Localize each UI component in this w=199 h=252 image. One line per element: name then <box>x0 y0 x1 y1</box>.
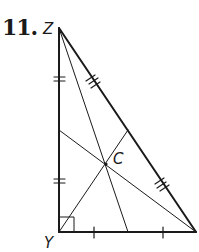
median-from-z <box>59 28 128 232</box>
median-from-x <box>59 130 196 232</box>
right-angle-mark <box>59 217 74 232</box>
triangle-diagram <box>0 0 199 252</box>
centroid-point <box>104 162 107 165</box>
